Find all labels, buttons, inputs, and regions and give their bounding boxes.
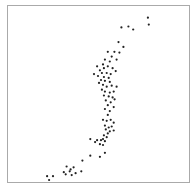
data-point xyxy=(127,25,129,27)
data-point xyxy=(109,130,111,132)
data-point xyxy=(108,126,110,128)
data-point xyxy=(80,170,82,172)
data-point xyxy=(106,136,108,138)
data-point xyxy=(113,91,115,93)
data-point xyxy=(48,179,50,181)
data-point xyxy=(107,104,109,106)
data-point xyxy=(132,28,134,30)
data-point xyxy=(102,63,104,65)
data-point xyxy=(109,60,111,62)
data-point xyxy=(109,81,111,83)
data-point xyxy=(94,141,96,143)
data-point xyxy=(98,82,100,84)
plot-frame xyxy=(8,6,190,183)
data-point xyxy=(116,86,118,88)
data-point xyxy=(118,52,120,54)
data-point xyxy=(104,91,106,93)
data-point xyxy=(108,77,110,79)
data-point xyxy=(102,119,104,121)
data-point xyxy=(106,120,108,122)
data-point xyxy=(104,125,106,127)
data-point xyxy=(147,17,149,19)
data-point xyxy=(114,98,116,100)
data-point xyxy=(148,24,150,26)
data-point xyxy=(115,70,117,72)
data-point xyxy=(81,160,83,162)
data-point xyxy=(105,99,107,101)
data-point xyxy=(110,73,112,75)
data-point xyxy=(100,139,102,141)
data-point xyxy=(101,72,103,74)
data-point xyxy=(103,94,105,96)
scatter-plot xyxy=(0,0,193,190)
data-point xyxy=(110,101,112,103)
data-point xyxy=(100,79,102,81)
data-point xyxy=(99,156,101,158)
data-point xyxy=(111,85,113,87)
data-point xyxy=(122,46,124,48)
data-point xyxy=(65,173,67,175)
data-point xyxy=(104,59,106,61)
data-point xyxy=(109,110,111,112)
data-point xyxy=(104,80,106,82)
data-point xyxy=(107,51,109,53)
data-point xyxy=(113,51,115,53)
data-point xyxy=(93,73,95,75)
data-point xyxy=(101,89,103,91)
data-point xyxy=(113,129,115,131)
data-point xyxy=(69,170,71,172)
data-point xyxy=(116,59,118,61)
data-point xyxy=(106,72,108,74)
data-point xyxy=(111,56,113,58)
data-point xyxy=(66,165,68,167)
data-point xyxy=(89,138,91,140)
data-point xyxy=(46,175,48,177)
data-point xyxy=(102,84,104,86)
data-point xyxy=(96,139,98,141)
data-point xyxy=(107,114,109,116)
data-point xyxy=(103,76,105,78)
data-point xyxy=(108,95,110,97)
data-point xyxy=(73,166,75,168)
data-point xyxy=(63,171,65,173)
data-point xyxy=(104,140,106,142)
data-point xyxy=(89,155,91,157)
data-point xyxy=(107,132,109,134)
data-point xyxy=(117,41,119,43)
data-point xyxy=(71,174,73,176)
data-point xyxy=(112,67,114,69)
data-point xyxy=(70,168,72,170)
data-point xyxy=(99,143,101,145)
data-point xyxy=(97,75,99,77)
data-point xyxy=(107,65,109,67)
data-point xyxy=(99,69,101,71)
data-point xyxy=(112,96,114,98)
data-point xyxy=(113,106,115,108)
data-point xyxy=(102,144,104,146)
data-point xyxy=(110,119,112,121)
data-point xyxy=(105,128,107,130)
data-point xyxy=(111,125,113,127)
data-point xyxy=(109,92,111,94)
data-point xyxy=(104,108,106,110)
data-point xyxy=(96,65,98,67)
data-point xyxy=(106,86,108,88)
data-point xyxy=(103,67,105,69)
data-point xyxy=(113,122,115,124)
data-point xyxy=(102,138,104,140)
data-point xyxy=(104,152,106,154)
data-point xyxy=(52,175,54,177)
data-point xyxy=(120,26,122,28)
data-point xyxy=(103,134,105,136)
data-point xyxy=(75,172,77,174)
